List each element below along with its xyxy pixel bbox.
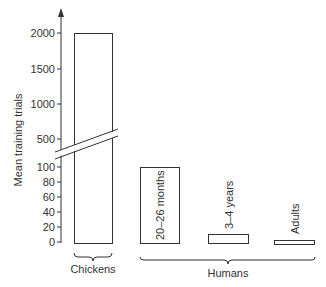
group-label-chickens: Chickens	[70, 263, 116, 275]
y-ticks-upper: 2000 1500 1000 500	[31, 27, 61, 145]
y-ticks-lower: 100 80 60 40 20 0	[37, 161, 61, 248]
tick-1000: 1000	[31, 98, 55, 110]
tick-60: 60	[43, 191, 55, 203]
bar-adults	[275, 241, 315, 245]
tick-20: 20	[43, 221, 55, 233]
tick-500: 500	[37, 133, 55, 145]
tick-100: 100	[37, 161, 55, 173]
tick-1500: 1500	[31, 63, 55, 75]
y-axis-arrow-icon	[58, 8, 64, 17]
y-axis-label: Mean training trials	[12, 93, 24, 186]
brace-chickens	[74, 253, 112, 261]
brace-humans	[140, 257, 315, 264]
bar-label-3-4-years: 3–4 years	[223, 180, 235, 229]
bar-label-20-26-months: 20–26 months	[154, 170, 166, 240]
tick-2000: 2000	[31, 27, 55, 39]
bar-3-4-years	[209, 235, 249, 244]
tick-40: 40	[43, 206, 55, 218]
bar-label-adults: Adults	[289, 203, 301, 234]
tick-0: 0	[49, 236, 55, 248]
tick-80: 80	[43, 176, 55, 188]
chart: 2000 1500 1000 500 100 80 60 40 20 0 Mea…	[0, 0, 326, 287]
group-label-humans: Humans	[208, 267, 249, 279]
